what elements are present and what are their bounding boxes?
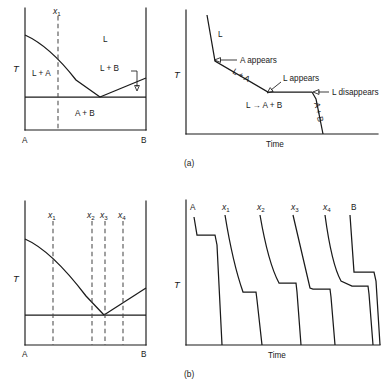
caption-a: (a) — [184, 158, 194, 168]
panel-a-composition-label-x1: x1 — [52, 6, 61, 17]
panel-b-composition-label-x4: x4 — [117, 210, 126, 221]
panel-a-cc-annotation-a-plus-b: A + B — [312, 102, 325, 124]
panel-a-cc-annotation-l-plus-a: L + A — [231, 67, 252, 84]
panel-a-region-label-l: L — [103, 35, 108, 44]
panel-a-cc-annotation-eutectic-reaction: L → A + B — [246, 101, 283, 110]
panel-a-cc-annotation-l-appears: L appears — [283, 74, 319, 83]
panel-b-composition-label-x3: x3 — [99, 210, 108, 221]
panel-b-cc-label-x2: x2 — [256, 202, 265, 213]
panel-b-liquidus-b-branch — [104, 288, 146, 315]
panel-b-cc-curve-b — [350, 215, 380, 345]
panel-b-composition-label-x1: x1 — [47, 210, 56, 221]
panel-b-cooling-curves: T Time A x1 x2 x3 x4 B — [174, 200, 380, 360]
panel-b-cc-curve-a — [194, 217, 222, 345]
panel-b-composition-label-x2: x2 — [86, 210, 95, 221]
panel-b-cc-label-b: B — [351, 203, 357, 212]
panel-b-cc-curve-x4 — [325, 215, 373, 345]
panel-b-x-tick-a: A — [22, 350, 28, 359]
panel-a-y-axis-label: T — [13, 63, 20, 74]
panel-a-liquidus-a-branch — [25, 35, 100, 97]
panel-a-cc-annotation-a-appears: A appears — [240, 56, 277, 65]
eutectic-figure-svg: T A B x1 L L + A L + B A + B T T — [0, 0, 383, 389]
panel-a-cooling-curve: T Time L A appears L + A L appears L → A… — [174, 10, 379, 149]
panel-a-cc-annotation-l: L — [218, 30, 223, 39]
panel-b-cc-label-x1: x1 — [221, 202, 230, 213]
panel-b-cc-x-axis-label: Time — [268, 351, 286, 360]
panel-b-cc-curve-x2 — [260, 215, 301, 345]
panel-a-x-tick-b: B — [141, 136, 147, 145]
panel-a-region-label-l-plus-a: L + A — [32, 69, 51, 78]
panel-a-x-tick-a: A — [22, 136, 28, 145]
panel-b-x-tick-b: B — [141, 350, 147, 359]
panel-b-cc-label-a: A — [190, 203, 196, 212]
panel-b-y-axis-label: T — [13, 273, 20, 284]
panel-a-phase-diagram: T A B x1 L L + A L + B A + B — [13, 6, 147, 145]
panel-b-cc-label-x4: x4 — [322, 202, 331, 213]
panel-a-liquidus-b-branch — [100, 78, 146, 97]
panel-a-lb-leader — [131, 71, 137, 87]
caption-b: (b) — [184, 369, 194, 379]
panel-a-region-label-l-plus-b: L + B — [100, 64, 120, 73]
panel-a-cc-annotation-l-disappears: L disappears — [332, 88, 379, 97]
panel-b-cc-curve-x1 — [225, 215, 262, 345]
panel-a-cc-x-axis-label: Time — [266, 140, 284, 149]
panel-b-cc-y-axis-label: T — [174, 279, 181, 290]
panel-b-phase-diagram: T A B x1 x2 x3 x4 — [13, 201, 147, 359]
panel-a-cc-arrow-l-appears-line — [271, 82, 281, 90]
panel-a-cc-y-axis-label: T — [174, 69, 181, 80]
panel-b-cc-label-x3: x3 — [290, 202, 299, 213]
panel-a-region-label-a-plus-b: A + B — [75, 109, 95, 118]
figure-root: T A B x1 L L + A L + B A + B T T — [0, 0, 383, 389]
